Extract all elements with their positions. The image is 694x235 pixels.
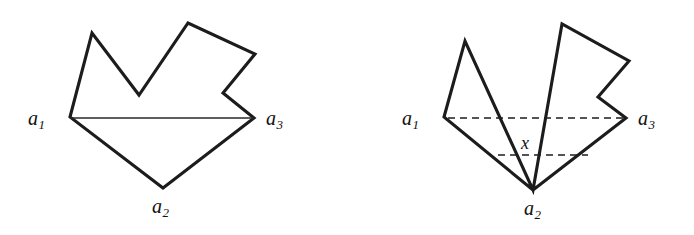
vertex-label-a3-left: a3	[266, 108, 283, 131]
vertex-label-a2-right-base: a	[524, 197, 534, 219]
vertex-label-a1-left: a1	[28, 108, 45, 131]
vertex-label-a3-left-base: a	[266, 107, 276, 129]
vertex-label-a2-right: a2	[524, 198, 541, 221]
vertex-label-a1-right-base: a	[402, 107, 412, 129]
vertex-label-a3-right-base: a	[638, 107, 648, 129]
vertex-label-a3-left-sub: 3	[277, 117, 284, 132]
self-intersecting-polygon-outline	[444, 24, 629, 190]
vertex-label-a1-right-sub: 1	[413, 117, 420, 132]
simple-polygon-outline	[70, 23, 255, 188]
figure-root: a1 a2 a3 a1 a2 a3 x	[0, 0, 694, 235]
vertex-label-a2-left-base: a	[152, 195, 162, 217]
simple-polygon-panel	[70, 23, 255, 188]
vertex-label-a2-left: a2	[152, 196, 169, 219]
vertex-label-a2-right-sub: 2	[535, 207, 542, 222]
figure-canvas	[0, 0, 694, 235]
vertex-label-a3-right-sub: 3	[649, 117, 656, 132]
vertex-label-a3-right: a3	[638, 108, 655, 131]
vertex-label-a1-left-sub: 1	[39, 117, 46, 132]
vertex-label-a1-left-base: a	[28, 107, 38, 129]
vertex-label-a2-left-sub: 2	[163, 205, 170, 220]
vertex-label-a1-right: a1	[402, 108, 419, 131]
self-intersecting-polygon-panel	[444, 24, 629, 190]
crossing-point-label-x: x	[521, 134, 529, 152]
